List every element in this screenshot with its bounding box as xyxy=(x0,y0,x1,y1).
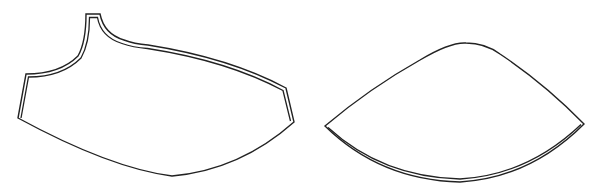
right-piece-body xyxy=(325,43,584,182)
left-pattern-piece xyxy=(18,14,294,176)
right-pattern-piece xyxy=(325,43,584,182)
figure-canvas xyxy=(0,0,600,196)
left-piece-body xyxy=(18,14,294,176)
